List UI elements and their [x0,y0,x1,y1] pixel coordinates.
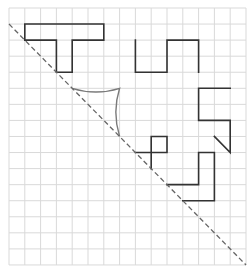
mirror-line-dashed [9,24,246,265]
t-shape [25,24,104,72]
grid [9,8,246,265]
shapes-layer [25,24,230,201]
mirror-line-layer [9,24,246,265]
step-shape [167,153,214,201]
small-square-shape [135,136,167,168]
reflection-grid-diagram [0,0,251,273]
